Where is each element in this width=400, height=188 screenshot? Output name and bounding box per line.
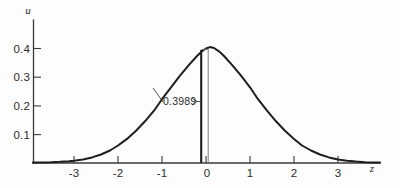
y-tick-label-0.1: 0.1 (13, 129, 30, 141)
x-tick-marks (74, 156, 338, 163)
x-tick-label-3: 3 (335, 167, 342, 179)
y-axis-title: u (25, 4, 31, 16)
x-tick-label-2: 2 (291, 167, 298, 179)
x-tick-labels: -3 -2 -1 0 1 2 3 (69, 167, 342, 179)
x-tick-label-1: 1 (247, 167, 254, 179)
normal-distribution-figure: 0.4 0.3 0.2 0.1 -3 -2 -1 0 1 2 3 u z (0, 0, 400, 188)
x-tick-label--3: -3 (69, 167, 80, 179)
y-tick-marks (34, 49, 42, 135)
normal-density-curve (33, 47, 380, 163)
ordinate-group (201, 49, 208, 163)
x-tick-label--1: -1 (157, 167, 168, 179)
x-tick-label--2: -2 (113, 167, 124, 179)
x-axis-title: z (369, 162, 375, 174)
plot-canvas: 0.4 0.3 0.2 0.1 -3 -2 -1 0 1 2 3 u z (0, 0, 400, 188)
y-tick-label-0.2: 0.2 (13, 100, 30, 112)
y-tick-label-0.4: 0.4 (13, 43, 30, 55)
axis-group (33, 20, 380, 164)
annotation-leader-line (153, 88, 163, 102)
x-tick-label-0: 0 (204, 167, 211, 179)
y-tick-labels: 0.4 0.3 0.2 0.1 (13, 43, 30, 141)
y-tick-label-0.3: 0.3 (13, 71, 30, 83)
annotation-value-label: 0.3989 (163, 95, 196, 107)
